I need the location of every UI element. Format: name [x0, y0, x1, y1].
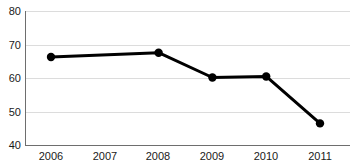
- line-chart: 80 70 60 50 40 2006 2007 2008 2009 2010 …: [0, 0, 354, 167]
- data-point-marker: [47, 53, 55, 61]
- x-tick-label-2006: 2006: [39, 150, 63, 162]
- chart-canvas: 80 70 60 50 40 2006 2007 2008 2009 2010 …: [0, 0, 354, 167]
- x-tick-label-2011: 2011: [308, 150, 332, 162]
- data-point-marker: [262, 72, 270, 80]
- y-tick-label-70: 70: [9, 39, 21, 51]
- x-tick-label-2007: 2007: [93, 150, 117, 162]
- data-point-marker: [316, 119, 324, 127]
- chart-background: [0, 0, 354, 167]
- y-tick-label-80: 80: [9, 5, 21, 17]
- data-point-marker: [154, 49, 162, 57]
- y-tick-label-40: 40: [9, 139, 21, 151]
- data-point-marker: [208, 73, 216, 81]
- y-tick-label-60: 60: [9, 72, 21, 84]
- x-tick-label-2010: 2010: [254, 150, 278, 162]
- y-tick-label-50: 50: [9, 106, 21, 118]
- x-tick-label-2008: 2008: [146, 150, 170, 162]
- x-tick-label-2009: 2009: [200, 150, 224, 162]
